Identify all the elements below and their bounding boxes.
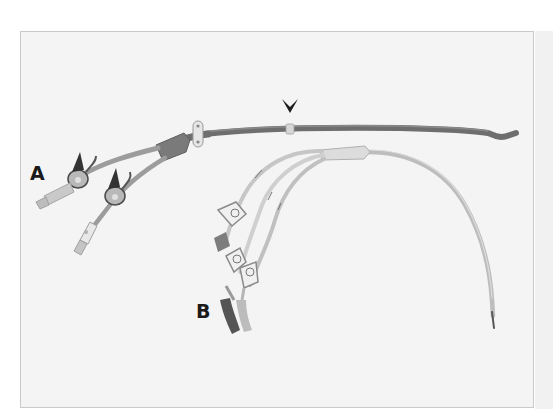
- marker-band: [286, 124, 294, 134]
- arrowhead-marker: [282, 99, 298, 113]
- catheter-a: [36, 121, 516, 255]
- catheter-photograph: [0, 0, 553, 419]
- catheter-b: [214, 146, 494, 334]
- clamp-icon: [218, 202, 246, 226]
- label-b: B: [196, 302, 210, 321]
- suture-wing: [193, 121, 203, 147]
- catheter-a-hub: [156, 133, 190, 161]
- label-a: A: [30, 164, 45, 183]
